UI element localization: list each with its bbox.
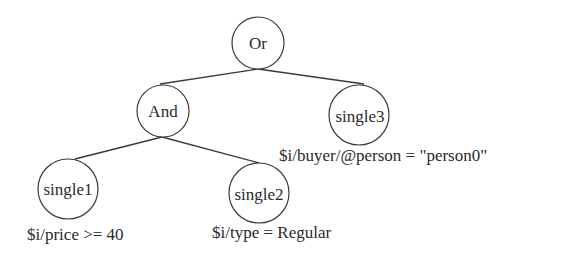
node-single1-condition: $i/price >= 40 xyxy=(27,225,124,244)
query-tree-diagram: Or And single3 $i/buyer/@person = "perso… xyxy=(0,0,568,259)
node-or: Or xyxy=(232,17,284,69)
node-single3-condition: $i/buyer/@person = "person0" xyxy=(279,146,487,165)
node-single3-label: single3 xyxy=(335,107,384,126)
node-or-label: Or xyxy=(249,34,267,53)
node-single2-label: single2 xyxy=(234,185,283,204)
edge-or-single3 xyxy=(258,69,364,84)
edge-and-single1 xyxy=(75,137,162,159)
node-single2: single2 $i/type = Regular xyxy=(212,163,331,242)
edge-or-and xyxy=(160,69,258,84)
node-single1-label: single1 xyxy=(43,180,92,199)
node-single2-condition: $i/type = Regular xyxy=(212,223,331,242)
node-and: And xyxy=(137,85,189,137)
node-single1: single1 $i/price >= 40 xyxy=(27,159,124,244)
edge-and-single2 xyxy=(162,137,259,163)
node-and-label: And xyxy=(148,102,178,121)
node-single3: single3 $i/buyer/@person = "person0" xyxy=(279,85,487,165)
